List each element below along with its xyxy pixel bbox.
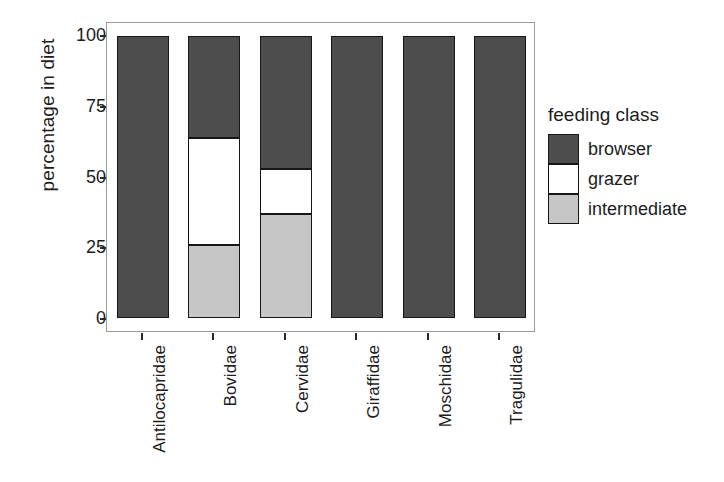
legend-item-browser[interactable]: browser: [548, 134, 720, 164]
x-tick-label-tragulidae: Tragulidae: [507, 345, 527, 425]
bar-giraffidae[interactable]: [331, 36, 383, 318]
y-axis: 100 75 50 25 0: [50, 0, 106, 482]
x-tick-mark-bovidae: [212, 333, 214, 340]
x-tick-mark-tragulidae: [498, 333, 500, 340]
bar-segment-browser[interactable]: [188, 36, 240, 138]
legend-item-intermediate[interactable]: intermediate: [548, 194, 720, 224]
bar-segment-browser[interactable]: [474, 36, 526, 318]
bar-segment-browser[interactable]: [260, 36, 312, 169]
bar-segment-browser[interactable]: [403, 36, 455, 318]
bar-segment-grazer[interactable]: [188, 138, 240, 245]
x-tick-label-cervidae: Cervidae: [293, 345, 313, 413]
legend-title: feeding class: [548, 104, 720, 126]
legend-swatch-grazer: [548, 164, 579, 194]
bar-bovidae[interactable]: [188, 36, 240, 318]
legend-label-intermediate: intermediate: [588, 199, 687, 220]
legend: feeding class browser grazer intermediat…: [548, 104, 720, 224]
legend-swatch-browser: [548, 134, 579, 164]
x-tick-mark-cervidae: [284, 333, 286, 340]
legend-label-grazer: grazer: [588, 169, 639, 190]
x-tick-mark-antilocapridae: [141, 333, 143, 340]
x-tick-label-bovidae: Bovidae: [221, 345, 241, 406]
bar-segment-intermediate[interactable]: [188, 245, 240, 318]
plot-area: [107, 23, 534, 331]
stacked-bar-chart-figure: percentage in diet 100 75 50 25 0 Antilo…: [0, 0, 724, 482]
bar-moschidae[interactable]: [403, 36, 455, 318]
legend-swatch-intermediate: [548, 194, 579, 224]
plot-panel: [106, 22, 535, 332]
legend-item-grazer[interactable]: grazer: [548, 164, 720, 194]
bar-antilocapridae[interactable]: [117, 36, 169, 318]
x-tick-mark-moschidae: [427, 333, 429, 340]
x-tick-mark-giraffidae: [355, 333, 357, 340]
bar-tragulidae[interactable]: [474, 36, 526, 318]
x-tick-label-giraffidae: Giraffidae: [364, 345, 384, 418]
x-tick-label-moschidae: Moschidae: [436, 345, 456, 427]
bar-cervidae[interactable]: [260, 36, 312, 318]
bar-segment-grazer[interactable]: [260, 169, 312, 214]
legend-label-browser: browser: [588, 139, 652, 160]
x-tick-label-antilocapridae: Antilocapridae: [150, 345, 170, 453]
bar-segment-browser[interactable]: [117, 36, 169, 318]
bar-segment-browser[interactable]: [331, 36, 383, 318]
bar-segment-intermediate[interactable]: [260, 214, 312, 318]
